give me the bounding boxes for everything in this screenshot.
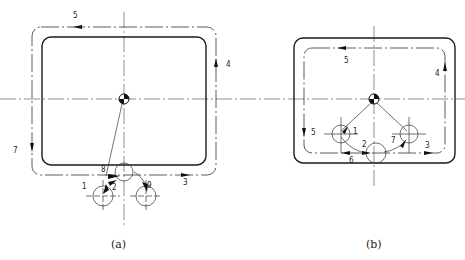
panel-b-right-approach-line	[377, 103, 407, 131]
panel-a: 5 4 7 8 1 2 9 3 (a)	[0, 11, 465, 251]
panel-a-arrow-3	[181, 173, 190, 177]
panel-a-label-2: 2	[112, 183, 117, 192]
panel-a-label-4: 4	[226, 60, 231, 69]
panel-b-label-5-left: 5	[311, 128, 316, 137]
panel-a-label-1: 1	[82, 182, 87, 191]
panel-b-label-3: 3	[425, 141, 430, 150]
panel-b-label-4: 4	[435, 69, 440, 78]
panel-b-arrow-7	[400, 140, 406, 148]
panel-a-label-9: 9	[147, 181, 152, 190]
panel-a-arrow-7	[30, 143, 34, 152]
panel-b-origin-icon	[369, 94, 379, 104]
panel-b-arrow-5-top	[337, 46, 346, 50]
panel-a-label-7: 7	[13, 146, 18, 155]
panel-a-origin-icon	[119, 94, 129, 104]
panel-a-arrow-4	[214, 58, 218, 67]
panel-b-arrow-2	[362, 151, 371, 155]
panel-b-label-1: 1	[353, 127, 358, 136]
panel-a-arrow-1	[103, 184, 109, 194]
diagram-canvas: 5 4 7 8 1 2 9 3 (a)	[0, 0, 465, 260]
panel-a-arrow-5	[73, 25, 82, 29]
panel-b-label-2: 2	[362, 140, 367, 149]
panel-b-label-6: 6	[349, 156, 354, 165]
panel-b-label-7: 7	[391, 136, 396, 145]
panel-a-caption: (a)	[111, 238, 126, 251]
panel-b-arrow-6	[341, 151, 350, 155]
panel-a-label-5: 5	[73, 11, 78, 20]
panel-b-caption: (b)	[366, 238, 382, 251]
panel-a-label-3: 3	[183, 178, 188, 187]
panel-a-label-8: 8	[101, 165, 106, 174]
panel-b-arrow-3	[424, 151, 433, 155]
panel-b: 5 4 5 1 2 7 6 3 (b)	[294, 26, 455, 251]
panel-b-label-5-top: 5	[344, 56, 349, 65]
panel-b-arrow-5-left	[302, 128, 306, 137]
panel-b-arrow-4	[443, 62, 447, 71]
